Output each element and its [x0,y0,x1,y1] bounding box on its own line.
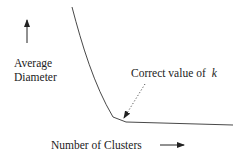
y-axis-label-line1: Average [14,56,57,70]
x-axis-label: Number of Clusters [51,138,142,152]
elbow-pointer-arrow-icon [124,84,145,118]
y-axis-label: Average Diameter [14,56,57,84]
annotation-text: Correct value of [131,67,206,79]
annotation-variable: k [212,67,217,79]
y-axis-label-line2: Diameter [14,70,57,84]
elbow-annotation: Correct value ofk [131,66,217,80]
